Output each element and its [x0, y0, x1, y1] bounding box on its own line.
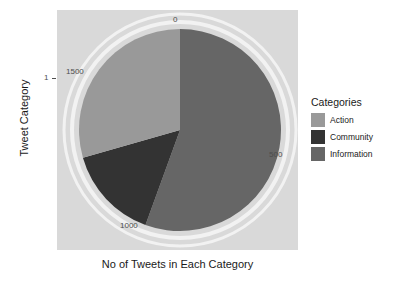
legend-item-action[interactable]: Action — [311, 113, 397, 128]
y-axis-title: Tweet Category — [18, 58, 30, 178]
axis-label-0: 0 — [173, 16, 177, 24]
x-axis-title: No of Tweets in Each Category — [57, 258, 298, 270]
axis-label-1500: 1500 — [66, 68, 84, 76]
legend: Categories Action Community Information — [311, 97, 397, 164]
legend-item-information[interactable]: Information — [311, 147, 397, 162]
y-axis-tick-label: 1 — [44, 74, 48, 82]
legend-key-action — [311, 113, 325, 127]
legend-key-community — [311, 130, 325, 144]
legend-key-information — [311, 147, 325, 161]
y-axis-tick-mark — [52, 78, 56, 79]
pie-chart-figure: 0 500 1000 1500 1 Tweet Category No of T… — [0, 0, 401, 283]
axis-label-1000: 1000 — [120, 222, 138, 230]
legend-title: Categories — [311, 97, 397, 109]
legend-item-community[interactable]: Community — [311, 130, 397, 145]
legend-label-action: Action — [330, 116, 354, 125]
pie-chart-graphic — [57, 10, 298, 250]
legend-label-community: Community — [330, 133, 373, 142]
legend-label-information: Information — [330, 150, 373, 159]
axis-label-500: 500 — [269, 151, 282, 159]
